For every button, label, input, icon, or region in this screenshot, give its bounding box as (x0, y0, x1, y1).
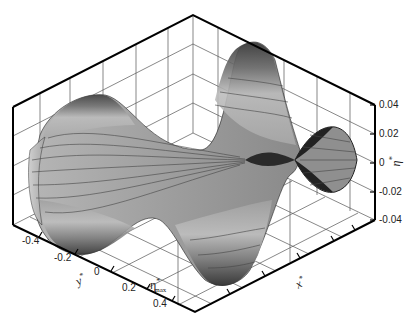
y-tick-label: 0.4 (153, 298, 167, 309)
z-title-text: η (389, 161, 403, 167)
surface-plot: 0.04 0.02 0 -0.02 -0.04 η* -0.4 -0.2 0 0… (0, 0, 415, 326)
eta-max-sub: max (154, 286, 166, 294)
z-title-sup: * (388, 157, 397, 161)
y-tick-label: -0.2 (54, 252, 71, 263)
z-tick-label: 0.02 (379, 128, 398, 139)
eta-max-sup: * (156, 277, 160, 286)
eta-max-label: η*max (150, 278, 172, 293)
z-tick-label: 0 (379, 157, 385, 168)
z-axis-title: η* (389, 157, 404, 167)
plot-canvas (0, 0, 415, 326)
z-tick-label: -0.04 (379, 214, 402, 225)
z-tick-label: 0.04 (379, 99, 398, 110)
y-tick-label: 0 (94, 266, 100, 277)
y-tick-label: -0.4 (22, 235, 39, 246)
y-tick-label: 0.2 (122, 282, 136, 293)
z-tick-label: -0.02 (379, 186, 402, 197)
